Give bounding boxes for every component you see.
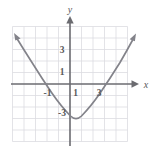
parabola-graph-figure: 3 1 -3 -1 1 3 y x — [0, 0, 156, 152]
y-axis — [66, 16, 73, 146]
x-axis-arrowhead-icon — [132, 80, 140, 87]
x-tick-label-3: 3 — [97, 88, 102, 98]
y-tick-label-neg-3: -3 — [58, 108, 66, 118]
y-axis-label: y — [67, 4, 73, 15]
y-tick-label-3: 3 — [60, 45, 65, 55]
parabola-curve — [14, 33, 136, 119]
x-axis-label: x — [143, 79, 149, 90]
graph-canvas: 3 1 -3 -1 1 3 y x — [0, 0, 156, 152]
parabola-right-arrowhead-icon — [130, 34, 136, 42]
x-tick-label-1: 1 — [73, 88, 78, 98]
y-tick-label-1: 1 — [60, 67, 65, 77]
parabola-left-arrowhead-icon — [14, 33, 21, 41]
y-axis-arrowhead-icon — [66, 16, 73, 24]
x-tick-label-neg-1: -1 — [44, 88, 52, 98]
